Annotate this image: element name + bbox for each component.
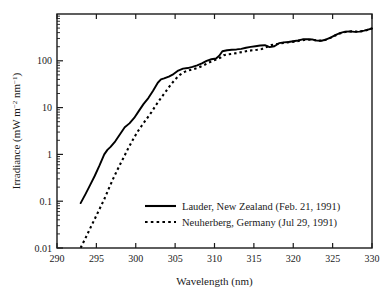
svg-text:Irradiance (mW m−2 nm−1): Irradiance (mW m−2 nm−1) (10, 72, 23, 189)
chart-background (0, 0, 390, 296)
y-tick-label: 100 (37, 55, 52, 66)
legend-label-lauder: Lauder, New Zealand (Feb. 21, 1991) (182, 201, 341, 213)
y-tick-label: 0.01 (35, 243, 53, 254)
x-tick-label: 325 (325, 253, 340, 264)
y-axis-title-suffix: ) (10, 72, 23, 76)
x-axis-title: Wavelength (nm) (176, 275, 253, 288)
x-tick-label: 295 (89, 253, 104, 264)
x-tick-label: 330 (365, 253, 380, 264)
x-tick-label: 320 (286, 253, 301, 264)
x-axis-tick-labels: 290295300305310315320325330 (50, 253, 380, 264)
y-tick-label: 10 (42, 102, 52, 113)
x-tick-label: 300 (128, 253, 143, 264)
x-tick-label: 310 (207, 253, 222, 264)
y-axis-title-prefix: Irradiance (mW m (10, 108, 23, 189)
y-tick-label: 0.1 (40, 196, 53, 207)
y-axis-title-middle: nm (10, 83, 22, 100)
x-tick-label: 305 (168, 253, 183, 264)
irradiance-spectrum-chart: 290295300305310315320325330 0.010.111010… (0, 0, 390, 296)
y-tick-label: 1 (47, 149, 52, 160)
x-tick-label: 290 (50, 253, 65, 264)
legend-label-neuherberg: Neuherberg, Germany (Jul 29, 1991) (182, 217, 337, 229)
y-axis-title: Irradiance (mW m−2 nm−1) (10, 72, 23, 189)
x-tick-label: 315 (246, 253, 261, 264)
